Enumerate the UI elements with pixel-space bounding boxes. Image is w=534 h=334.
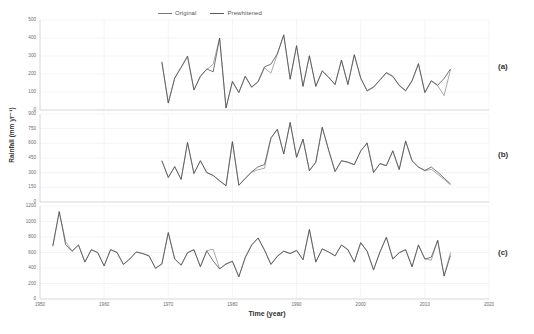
panel-tag-c: (c) bbox=[498, 248, 508, 257]
legend-label-original: Original bbox=[175, 10, 196, 16]
legend-entry-prewhitened: Prewhitened bbox=[210, 10, 261, 16]
y-tick-label: 750 bbox=[6, 126, 36, 131]
y-tick-label: 1200 bbox=[6, 203, 36, 208]
legend-label-prewhitened: Prewhitened bbox=[227, 10, 261, 16]
y-tick-label: 300 bbox=[6, 53, 36, 58]
panel-(c) bbox=[40, 206, 489, 299]
y-tick-label: 450 bbox=[6, 155, 36, 160]
y-tick-label: 300 bbox=[6, 170, 36, 175]
series-line-prewhitened bbox=[162, 35, 451, 108]
figure-root: Original Prewhitened Rainfall (mm yr⁻¹) … bbox=[0, 0, 534, 334]
panel-(b) bbox=[40, 114, 489, 202]
x-tick-label: 1960 bbox=[99, 302, 109, 307]
y-tick-label: 200 bbox=[6, 71, 36, 76]
series-line-prewhitened bbox=[162, 122, 451, 185]
y-tick-label: 1000 bbox=[6, 219, 36, 224]
legend-swatch-prewhitened bbox=[210, 13, 224, 14]
y-tick-label: 0 bbox=[6, 296, 36, 301]
y-tick-label: 150 bbox=[6, 184, 36, 189]
panel-(a) bbox=[40, 20, 489, 110]
plot-canvas bbox=[0, 0, 534, 334]
y-tick-label: 500 bbox=[6, 17, 36, 22]
y-tick-label: 200 bbox=[6, 281, 36, 286]
x-tick-label: 2000 bbox=[356, 302, 366, 307]
legend-swatch-original bbox=[158, 13, 172, 14]
y-tick-label: 400 bbox=[6, 35, 36, 40]
y-tick-label: 600 bbox=[6, 140, 36, 145]
x-axis-title: Time (year) bbox=[0, 310, 534, 317]
y-tick-label: 800 bbox=[6, 234, 36, 239]
x-tick-label: 2020 bbox=[484, 302, 494, 307]
y-tick-label: 900 bbox=[6, 111, 36, 116]
series-line-original bbox=[53, 211, 451, 276]
x-tick-label: 1990 bbox=[291, 302, 301, 307]
panel-tag-a: (a) bbox=[498, 62, 508, 71]
y-tick-label: 100 bbox=[6, 89, 36, 94]
legend-entry-original: Original bbox=[158, 10, 196, 16]
chart-legend: Original Prewhitened bbox=[158, 6, 358, 20]
x-tick-label: 1950 bbox=[35, 302, 45, 307]
y-tick-label: 600 bbox=[6, 250, 36, 255]
panel-tag-b: (b) bbox=[498, 150, 508, 159]
x-tick-label: 1980 bbox=[227, 302, 237, 307]
y-tick-label: 400 bbox=[6, 265, 36, 270]
x-tick-label: 1970 bbox=[163, 302, 173, 307]
x-tick-label: 2010 bbox=[420, 302, 430, 307]
